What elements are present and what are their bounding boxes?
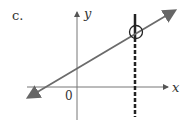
part-label: c. xyxy=(12,8,23,23)
x-axis-label: x xyxy=(172,80,179,95)
graph-canvas xyxy=(0,0,190,125)
y-axis-label: y xyxy=(84,6,91,21)
increasing-line xyxy=(29,11,174,97)
origin-label: 0 xyxy=(65,89,73,103)
